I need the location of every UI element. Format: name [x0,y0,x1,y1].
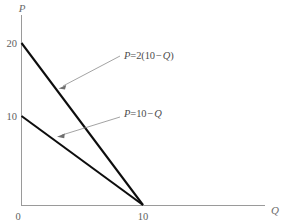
leader-line-steep [63,56,120,86]
leader-arrowhead-steep [59,85,67,90]
annotation-shallow-curve: P=10−Q [123,108,162,119]
leader-line-shallow [62,117,120,135]
x-tick-label-10: 10 [138,211,149,222]
demand-curve-steep [22,43,144,205]
demand-curve-shallow [22,116,144,205]
annotation-steep-curve: P=2(10−Q) [123,50,174,62]
origin-label: 0 [15,211,20,222]
y-tick-label-20: 20 [7,38,18,49]
annotation-steep-eq: =2(10 [130,50,155,62]
x-axis-label: Q [271,204,279,216]
y-tick-label-10: 10 [7,111,18,122]
leader-arrowhead-shallow [57,134,65,139]
chart-canvas: P Q 20 10 0 10 P=2(10−Q) P=10−Q [0,0,289,224]
economics-demand-curve-figure: P Q 20 10 0 10 P=2(10−Q) P=10−Q [0,0,289,224]
annotation-steep-close: ) [170,50,174,62]
annotation-shallow-rhs: Q [154,108,162,119]
annotation-shallow-minus: − [147,108,153,119]
y-axis-label: P [18,2,26,14]
annotation-steep-minus: − [156,50,162,61]
annotation-shallow-eq: =10 [130,108,146,119]
